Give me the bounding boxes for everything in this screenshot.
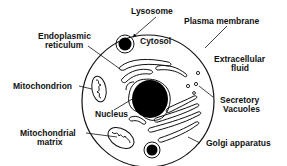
label-cytosol: Cytosol [140,36,171,46]
label-golgi-apparatus: Golgi apparatus [206,138,271,148]
label-extracellular-fluid-2: fluid [231,63,249,73]
label-plasma-membrane: Plasma membrane [184,16,259,26]
label-lysosome: Lysosome [131,6,173,16]
mitochondrion-matrix [104,123,137,153]
nucleus [129,79,171,120]
label-endoplasmic-reticulum-2: reticulum [45,40,84,50]
label-nucleus: Nucleus [95,109,128,119]
cell-diagram: Lysosome Plasma membrane Endoplasmic ret… [0,0,287,166]
lysosome [116,35,134,53]
mitochondrion [90,75,108,103]
label-mitochondrial-matrix-2: matrix [37,137,63,147]
lysosome-bottom [144,142,160,158]
label-mitochondrion: Mitochondrion [13,81,72,91]
label-secretory-vacuoles-2: Vacuoles [223,104,260,114]
secretory-vacuoles [186,71,199,94]
